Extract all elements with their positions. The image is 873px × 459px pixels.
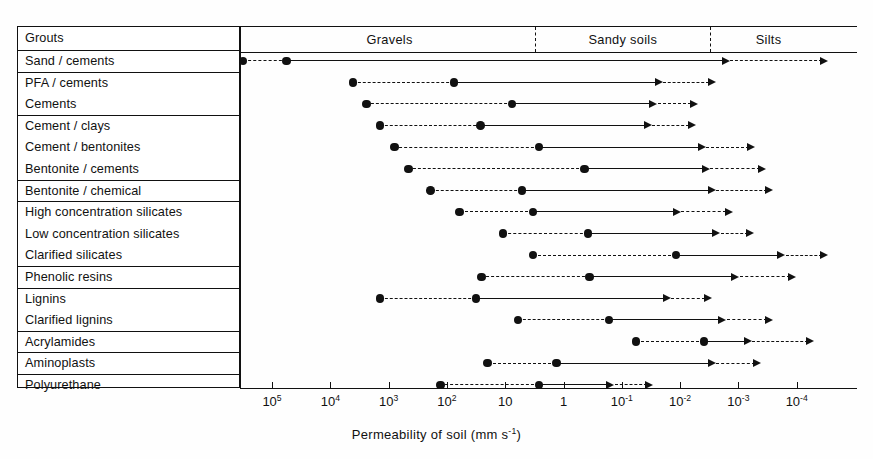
range-inner-limit-dot[interactable]	[476, 121, 485, 130]
range-uncertain-segment	[481, 276, 589, 277]
range-outer-limit-dot[interactable]	[239, 57, 248, 66]
label-group: High concentration silicatesLow concentr…	[18, 202, 239, 267]
tick-label-base: 10	[498, 394, 512, 409]
x-axis-title-text: Permeability of soil (mm s	[352, 427, 509, 442]
range-outer-limit-dot[interactable]	[349, 78, 358, 87]
tick-label-base: 10	[786, 394, 800, 409]
range-extended-arrowhead	[820, 57, 828, 65]
grout-label-row[interactable]: High concentration silicates	[18, 202, 239, 223]
range-main-segment	[481, 125, 645, 126]
x-axis-tick	[680, 382, 681, 389]
range-extended-arrowhead	[725, 208, 733, 216]
grout-label-row[interactable]: Phenolic resins	[18, 267, 239, 288]
range-inner-limit-dot[interactable]	[672, 251, 681, 260]
grout-label-row[interactable]: Sand / cements	[18, 51, 239, 72]
grout-label-row[interactable]: Bentonite / chemical	[18, 181, 239, 202]
range-uncertain-segment	[408, 168, 584, 169]
range-outer-limit-dot[interactable]	[499, 229, 508, 238]
x-axis-tick-label: 102	[437, 394, 456, 409]
range-inner-limit-dot[interactable]	[282, 57, 291, 66]
range-outer-limit-dot[interactable]	[483, 359, 492, 368]
x-axis-tick	[389, 382, 390, 389]
range-inner-limit-dot[interactable]	[518, 186, 527, 195]
x-axis-line	[240, 388, 857, 389]
range-main-segment	[522, 190, 709, 191]
range-main-arrowhead	[744, 337, 752, 345]
tick-label-exponent: 3	[393, 393, 398, 403]
range-inner-limit-dot[interactable]	[535, 143, 544, 152]
range-extended-segment	[716, 363, 754, 364]
range-inner-limit-dot[interactable]	[472, 294, 481, 303]
range-extended-arrowhead	[708, 78, 716, 86]
grout-label-row[interactable]: Bentonite / cements	[18, 158, 239, 179]
range-main-arrowhead	[673, 208, 681, 216]
range-outer-limit-dot[interactable]	[514, 316, 523, 325]
range-main-arrowhead	[698, 143, 706, 151]
grout-label-row[interactable]: Clarified lignins	[18, 310, 239, 331]
grout-label-row[interactable]: Cements	[18, 94, 239, 115]
range-main-segment	[590, 276, 733, 277]
range-outer-limit-dot[interactable]	[362, 100, 371, 109]
grout-label-row[interactable]: Aminoplasts	[18, 353, 239, 374]
x-axis-tick	[564, 382, 565, 389]
range-uncertain-segment	[366, 103, 512, 104]
range-extended-segment	[681, 211, 726, 212]
range-outer-limit-dot[interactable]	[426, 186, 435, 195]
range-outer-limit-dot[interactable]	[376, 294, 385, 303]
grout-label-row[interactable]: Lignins	[18, 289, 239, 310]
grout-label-row[interactable]: Polyurethane	[18, 375, 239, 397]
range-main-arrowhead	[708, 359, 716, 367]
range-extended-segment	[663, 82, 709, 83]
range-extended-arrowhead	[758, 165, 766, 173]
range-inner-limit-dot[interactable]	[552, 359, 561, 368]
range-inner-limit-dot[interactable]	[605, 316, 614, 325]
range-extended-segment	[706, 147, 749, 148]
x-axis-title-exponent: -1	[508, 426, 516, 436]
range-uncertain-segment	[488, 363, 557, 364]
range-inner-limit-dot[interactable]	[580, 165, 589, 174]
grout-label-row[interactable]: Cement / clays	[18, 116, 239, 137]
label-group: LigninsClarified lignins	[18, 289, 239, 332]
grout-label-table: Grouts Sand / cementsPFA / cementsCement…	[17, 26, 240, 388]
range-main-segment	[609, 319, 720, 320]
x-axis-tick-label: 1	[560, 394, 567, 409]
range-inner-limit-dot[interactable]	[584, 229, 593, 238]
range-outer-limit-dot[interactable]	[376, 121, 385, 130]
range-inner-limit-dot[interactable]	[450, 78, 459, 87]
range-outer-limit-dot[interactable]	[529, 251, 538, 260]
range-extended-segment	[721, 233, 748, 234]
range-inner-limit-dot[interactable]	[700, 337, 709, 346]
grout-label-row[interactable]: Acrylamides	[18, 332, 239, 353]
plot-area	[240, 53, 857, 388]
range-inner-limit-dot[interactable]	[585, 273, 594, 282]
range-outer-limit-dot[interactable]	[390, 143, 399, 152]
range-main-segment	[676, 255, 779, 256]
soil-class-sandy-soils: Sandy soils	[535, 27, 710, 52]
range-main-arrowhead	[708, 186, 716, 194]
range-main-segment	[539, 147, 699, 148]
range-inner-limit-dot[interactable]	[508, 100, 517, 109]
label-group: Polyurethane	[18, 375, 239, 397]
label-group-container: Sand / cementsPFA / cementsCementsCement…	[18, 51, 239, 397]
range-outer-limit-dot[interactable]	[632, 337, 641, 346]
range-main-arrowhead	[644, 121, 652, 129]
range-extended-arrowhead	[806, 337, 814, 345]
grout-label-row[interactable]: PFA / cements	[18, 73, 239, 94]
range-outer-limit-dot[interactable]	[436, 381, 445, 390]
range-extended-arrowhead	[645, 381, 653, 389]
range-main-segment	[704, 341, 745, 342]
grout-label-row[interactable]: Clarified silicates	[18, 245, 239, 266]
grout-label-row[interactable]: Cement / bentonites	[18, 137, 239, 158]
range-outer-limit-dot[interactable]	[404, 165, 413, 174]
range-outer-limit-dot[interactable]	[455, 208, 464, 217]
grout-label-row[interactable]: Low concentration silicates	[18, 223, 239, 244]
range-main-arrowhead	[606, 381, 614, 389]
tick-label-base: 10	[437, 394, 451, 409]
range-inner-limit-dot[interactable]	[529, 208, 538, 217]
range-extended-segment	[727, 319, 767, 320]
table-header-group: Grouts	[18, 27, 239, 51]
range-main-segment	[454, 82, 656, 83]
range-outer-limit-dot[interactable]	[477, 273, 486, 282]
table-header-cell: Grouts	[18, 27, 239, 50]
range-extended-arrowhead	[747, 143, 755, 151]
